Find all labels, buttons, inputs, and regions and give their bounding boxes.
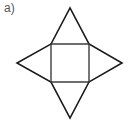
top-triangle-icon [51,8,89,44]
geometric-net-diagram [0,0,130,125]
left-triangle-icon [17,44,51,82]
figure-panel: a) [0,0,130,125]
triangle-group [17,8,122,118]
central-square-group [51,44,89,82]
bottom-triangle-icon [51,82,89,118]
right-triangle-icon [89,44,122,82]
